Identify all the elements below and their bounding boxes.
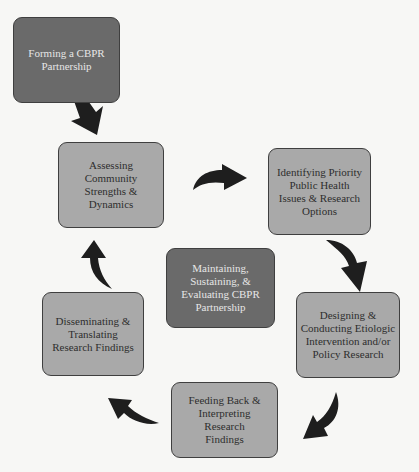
node-label: Identifying Priority Public Health Issue… — [275, 166, 364, 218]
node-feeding-back-interpreting: Feeding Back & Interpreting Research Fin… — [171, 382, 278, 458]
node-assessing-community-strengths: Assessing Community Strengths & Dynamics — [58, 142, 164, 228]
node-label: Disseminating & Translating Research Fin… — [49, 315, 137, 354]
arrow-feeding-to-disseminating — [108, 398, 159, 424]
arrow-disseminating-to-assessing — [81, 240, 112, 289]
node-disseminating-translating: Disseminating & Translating Research Fin… — [42, 292, 144, 376]
node-label: Maintaining, Sustaining, & Evaluating CB… — [177, 262, 264, 314]
node-forming-cbpr-partnership: Forming a CBPR Partnership — [13, 17, 120, 103]
node-maintaining-sustaining-evaluating: Maintaining, Sustaining, & Evaluating CB… — [166, 248, 275, 328]
node-label: Assessing Community Strengths & Dynamics — [73, 159, 149, 211]
arrow-identifying-to-designing — [326, 240, 367, 292]
node-identifying-priority-issues: Identifying Priority Public Health Issue… — [268, 148, 371, 235]
arrow-assessing-to-identifying — [193, 164, 247, 190]
node-label: Feeding Back & Interpreting Research Fin… — [184, 394, 265, 446]
node-label: Forming a CBPR Partnership — [20, 47, 113, 73]
arrow-designing-to-feeding — [303, 392, 338, 439]
node-designing-conducting-research: Designing & Conducting Etiologic Interve… — [296, 292, 400, 378]
node-label: Designing & Conducting Etiologic Interve… — [300, 309, 396, 361]
